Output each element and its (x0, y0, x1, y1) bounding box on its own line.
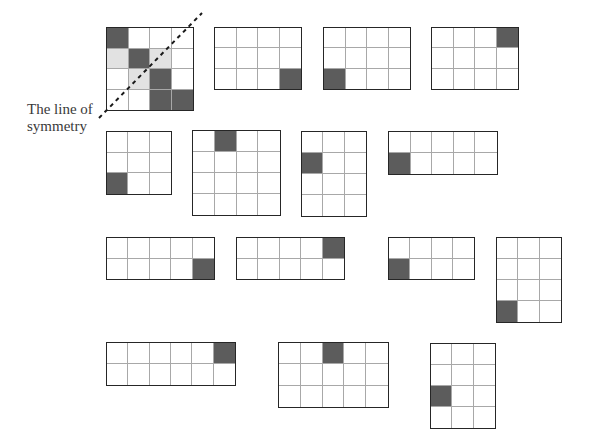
grid-cell-empty (367, 48, 389, 68)
grid-cell-empty (172, 28, 194, 49)
grid-cell-shaded (214, 343, 235, 364)
grid-12 (496, 237, 562, 323)
grid-cell-empty (258, 173, 280, 194)
grid-cell-empty (215, 48, 237, 68)
grid-cell-empty (192, 343, 213, 364)
grid-cell-empty (107, 132, 128, 153)
grid-cell-empty (280, 259, 301, 280)
grid-cell-empty (346, 69, 368, 89)
grid-cell-empty (193, 152, 215, 173)
grid-cell-empty (171, 364, 192, 385)
grid-cell-shaded (302, 153, 323, 174)
grid-cell-empty (237, 48, 259, 68)
grid-cell-empty (323, 386, 345, 407)
grid-cell-empty (107, 259, 128, 280)
grid-cell-empty (518, 280, 539, 301)
grid-cell-empty (324, 48, 346, 68)
grid-cell-empty (280, 238, 301, 259)
grid-cell-empty (237, 152, 259, 173)
grid-cell-reflected (107, 49, 129, 70)
grid-cell-empty (323, 364, 345, 385)
grid-cell-shaded (389, 259, 410, 280)
grid-cell-shaded (324, 69, 346, 89)
symmetry-label: The line of symmetry (27, 101, 93, 135)
grid-cell-empty (107, 364, 128, 385)
grid-cell-empty (475, 153, 497, 174)
grid-cell-reflected (150, 49, 172, 70)
grid-cell-empty (389, 48, 411, 68)
grid-cell-shaded (431, 386, 452, 407)
grid-cell-empty (280, 28, 302, 48)
grid-11 (388, 237, 475, 280)
grid-cell-empty (474, 365, 495, 386)
grid-cell-empty (150, 238, 171, 259)
grid-cell-empty (389, 238, 410, 259)
grid-cell-empty (344, 364, 366, 385)
grid-7 (301, 131, 367, 217)
grid-cell-empty (258, 131, 280, 152)
grid-cell-empty (497, 280, 518, 301)
grid-cell-empty (474, 344, 495, 365)
grid-cell-empty (129, 90, 151, 111)
grid-cell-empty (475, 48, 497, 68)
grid-cell-empty (454, 28, 476, 48)
grid-2 (214, 27, 302, 90)
grid-cell-empty (389, 132, 411, 153)
grid-cell-empty (518, 259, 539, 280)
grid-cell-empty (323, 132, 344, 153)
grid-cell-shaded (497, 301, 518, 322)
grid-cell-empty (345, 174, 366, 195)
grid-cell-empty (345, 195, 366, 216)
grid-cell-empty (128, 153, 149, 174)
grid-cell-empty (171, 259, 192, 280)
grid-cell-empty (497, 259, 518, 280)
grid-cell-empty (302, 174, 323, 195)
grid-15 (430, 343, 496, 429)
grid-cell-empty (344, 343, 366, 364)
grid-cell-empty (301, 386, 323, 407)
grid-cell-empty (128, 132, 149, 153)
grid-cell-empty (301, 364, 323, 385)
grid-8 (388, 131, 498, 175)
grid-cell-empty (279, 386, 301, 407)
grid-cell-empty (432, 259, 453, 280)
grid-cell-shaded (280, 69, 302, 89)
grid-3 (323, 27, 411, 90)
grid-cell-empty (107, 343, 128, 364)
grid-cell-empty (475, 69, 497, 89)
grid-10 (236, 237, 345, 280)
grid-cell-empty (215, 28, 237, 48)
grid-cell-empty (258, 259, 279, 280)
grid-cell-empty (453, 259, 474, 280)
grid-cell-empty (454, 48, 476, 68)
grid-cell-empty (171, 238, 192, 259)
grid-cell-empty (128, 238, 149, 259)
grid-13 (106, 342, 236, 386)
grid-cell-shaded (323, 238, 344, 259)
grid-cell-empty (323, 259, 344, 280)
grid-cell-empty (454, 69, 476, 89)
grid-cell-empty (237, 259, 258, 280)
grid-cell-shaded (150, 69, 172, 90)
grid-cell-shaded (107, 28, 129, 49)
grid-cell-empty (128, 259, 149, 280)
grid-cell-empty (237, 28, 259, 48)
grid-cell-empty (518, 301, 539, 322)
grid-14 (278, 342, 389, 408)
grid-cell-empty (411, 153, 433, 174)
grid-cell-empty (518, 238, 539, 259)
grid-cell-empty (453, 238, 474, 259)
grid-cell-empty (452, 407, 473, 428)
grid-cell-empty (107, 153, 128, 174)
grid-cell-empty (411, 132, 433, 153)
grid-cell-shaded (323, 343, 345, 364)
grid-cell-empty (301, 259, 322, 280)
grid-cell-empty (150, 28, 172, 49)
grid-5 (106, 131, 172, 195)
grid-cell-empty (389, 69, 411, 89)
grid-cell-empty (432, 153, 454, 174)
grid-cell-empty (150, 364, 171, 385)
example-grid (106, 27, 194, 111)
grid-cell-empty (454, 153, 476, 174)
grid-cell-empty (128, 364, 149, 385)
